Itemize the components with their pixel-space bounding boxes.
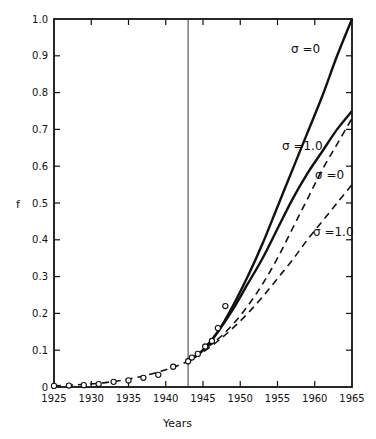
data-point (171, 364, 176, 369)
axis-tick-labels: 19251930193519401945195019551960196500.1… (32, 14, 365, 405)
series-group (54, 19, 352, 386)
x-tick-label: 1930 (79, 393, 104, 404)
data-point (66, 383, 71, 388)
curve-label-solid-sigma-0: σ =0 (291, 42, 320, 56)
y-tick-label: 1.0 (32, 14, 48, 25)
x-tick-label: 1955 (265, 393, 290, 404)
chart: 19251930193519401945195019551960196500.1… (0, 0, 376, 439)
data-point (126, 378, 131, 383)
y-tick-label: 0.4 (32, 234, 48, 245)
curve-dashed-2 (188, 118, 352, 361)
y-tick-label: 0.7 (32, 124, 48, 135)
x-tick-label: 1960 (302, 393, 327, 404)
data-point (51, 383, 56, 388)
data-point (223, 303, 228, 308)
y-tick-label: 0.2 (32, 308, 48, 319)
data-point (96, 381, 101, 386)
data-points (51, 303, 228, 388)
data-point (195, 351, 200, 356)
data-point (141, 375, 146, 380)
data-point (209, 338, 214, 343)
curve-label-dashed-sigma-1: σ =1.0 (313, 225, 354, 239)
y-tick-label: 0.8 (32, 87, 48, 98)
y-tick-label: 0.1 (32, 345, 48, 356)
data-point (81, 383, 86, 388)
y-axis-label: f (16, 198, 21, 211)
data-point (111, 379, 116, 384)
data-point (215, 326, 220, 331)
x-tick-label: 1950 (228, 393, 253, 404)
curve-dashed-3 (54, 185, 352, 386)
data-point (156, 372, 161, 377)
curve-label-dashed-sigma-0: σ =0 (315, 168, 344, 182)
y-tick-label: 0.3 (32, 271, 48, 282)
x-tick-label: 1965 (339, 393, 364, 404)
x-tick-label: 1925 (41, 393, 66, 404)
plot-border (54, 19, 352, 387)
curve-solid-0 (188, 19, 352, 361)
plot-frame (54, 19, 352, 387)
data-point (189, 355, 194, 360)
x-axis-label: Years (162, 417, 192, 430)
y-tick-label: 0.5 (32, 198, 48, 209)
y-tick-label: 0.6 (32, 161, 48, 172)
axis-ticks (54, 19, 352, 387)
data-point (203, 344, 208, 349)
y-tick-label: 0 (42, 382, 48, 393)
x-tick-label: 1935 (116, 393, 141, 404)
curve-label-solid-sigma-1: σ =1.0 (282, 139, 323, 153)
x-tick-label: 1945 (190, 393, 215, 404)
y-tick-label: 0.9 (32, 50, 48, 61)
x-tick-label: 1940 (153, 393, 178, 404)
